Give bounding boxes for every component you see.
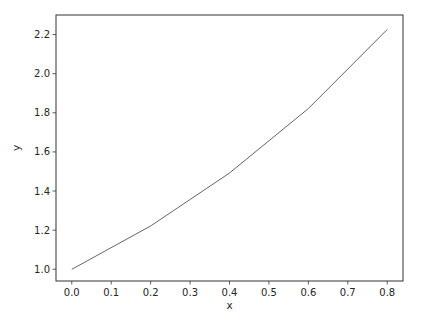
y-axis-label: y [10, 145, 22, 151]
x-axis-label: x [226, 299, 232, 311]
x-tick-label: 0.1 [103, 287, 119, 298]
y-tick-label: 1.8 [34, 107, 50, 118]
x-tick-label: 0.5 [261, 287, 277, 298]
x-tick-label: 0.4 [222, 287, 238, 298]
y-tick-label: 1.4 [34, 186, 50, 197]
y-tick-label: 2.0 [34, 68, 50, 79]
line-chart: 0.00.10.20.30.40.50.60.70.8 1.01.21.41.6… [0, 0, 423, 325]
x-tick-label: 0.3 [182, 287, 198, 298]
data-line [72, 30, 387, 270]
x-axis-ticks: 0.00.10.20.30.40.50.60.70.8 [64, 281, 395, 298]
x-tick-label: 0.6 [300, 287, 316, 298]
x-tick-label: 0.8 [379, 287, 395, 298]
y-axis-ticks: 1.01.21.41.61.82.02.2 [34, 29, 56, 275]
axes-frame [56, 15, 403, 281]
y-tick-label: 1.0 [34, 264, 50, 275]
y-tick-label: 1.6 [34, 146, 50, 157]
x-tick-label: 0.7 [340, 287, 356, 298]
y-tick-label: 1.2 [34, 225, 50, 236]
plot-area: 0.00.10.20.30.40.50.60.70.8 1.01.21.41.6… [34, 15, 403, 298]
x-tick-label: 0.0 [64, 287, 80, 298]
x-tick-label: 0.2 [143, 287, 159, 298]
y-tick-label: 2.2 [34, 29, 50, 40]
